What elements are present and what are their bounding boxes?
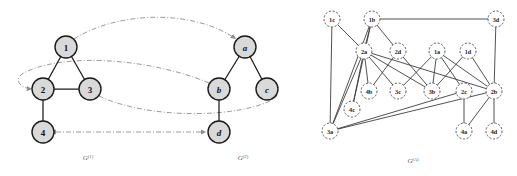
ga-node-circle-1a xyxy=(429,43,445,59)
ga-node-circle-3b xyxy=(424,83,440,99)
ga-node-circle-1d xyxy=(460,43,476,59)
ga-node-1d[interactable]: 1d xyxy=(460,43,476,59)
node-4[interactable]: 4 xyxy=(32,121,54,143)
ga-node-1c[interactable]: 1c xyxy=(324,11,340,27)
ga-node-circle-3a xyxy=(322,123,338,139)
caption-g2-sup: (2) xyxy=(243,154,249,159)
mapping-arrow-3-to-c xyxy=(99,90,277,114)
node-b[interactable]: b xyxy=(208,78,230,100)
ga-edge-2a-3a xyxy=(330,51,364,131)
g2-nodes: a b c d xyxy=(208,36,278,143)
caption-ga: G(A) xyxy=(408,157,419,166)
caption-g1: G(1) xyxy=(83,154,94,163)
caption-g2: G(2) xyxy=(238,154,249,163)
node-a[interactable]: a xyxy=(234,36,256,58)
ga-node-circle-2d xyxy=(390,43,406,59)
ga-node-3b[interactable]: 3b xyxy=(424,83,440,99)
ga-node-3d[interactable]: 3d xyxy=(488,11,504,27)
ga-node-circle-3d xyxy=(488,11,504,27)
ga-node-circle-2b xyxy=(486,83,502,99)
ga-node-2d[interactable]: 2d xyxy=(390,43,406,59)
node-d[interactable]: d xyxy=(208,121,230,143)
ga-node-circle-4b xyxy=(361,83,377,99)
graph-ga: 1c1b3d2a2d1a1d4b3c3b2c2b4c3a4a4d G(A) xyxy=(322,11,504,165)
figure-container: 1 2 3 4 G(1) xyxy=(0,0,517,176)
ga-edge-1c-3a xyxy=(330,19,332,131)
ga-node-circle-4a xyxy=(456,123,472,139)
caption-ga-sup: (A) xyxy=(413,157,419,162)
ga-node-1a[interactable]: 1a xyxy=(429,43,445,59)
ga-node-2c[interactable]: 2c xyxy=(456,83,472,99)
ga-node-circle-1b xyxy=(364,11,380,27)
ga-node-3c[interactable]: 3c xyxy=(390,83,406,99)
ga-node-4a[interactable]: 4a xyxy=(456,123,472,139)
ga-node-2b[interactable]: 2b xyxy=(486,83,502,99)
ga-node-4c[interactable]: 4c xyxy=(344,101,360,117)
graph-g1: 1 2 3 4 G(1) xyxy=(32,36,101,162)
mapping-arrow-layer xyxy=(18,17,277,132)
ga-nodes: 1c1b3d2a2d1a1d4b3c3b2c2b4c3a4a4d xyxy=(322,11,504,139)
ga-node-3a[interactable]: 3a xyxy=(322,123,338,139)
figure-svg: 1 2 3 4 G(1) xyxy=(0,0,517,176)
graph-g2: a b c d G(2) xyxy=(208,36,278,162)
ga-node-circle-4d xyxy=(486,123,502,139)
ga-edge-3d-2b xyxy=(494,19,496,91)
ga-node-circle-3c xyxy=(390,83,406,99)
caption-g1-sup: (1) xyxy=(88,154,94,159)
ga-node-4b[interactable]: 4b xyxy=(361,83,377,99)
mapping-arrow-1-to-a xyxy=(74,17,236,39)
ga-node-circle-2a xyxy=(356,43,372,59)
ga-node-circle-4c xyxy=(344,101,360,117)
ga-node-circle-1c xyxy=(324,11,340,27)
ga-node-1b[interactable]: 1b xyxy=(364,11,380,27)
ga-node-circle-2c xyxy=(456,83,472,99)
ga-edge-2a-4c xyxy=(352,51,364,109)
node-3[interactable]: 3 xyxy=(79,78,101,100)
node-2[interactable]: 2 xyxy=(32,78,54,100)
ga-node-4d[interactable]: 4d xyxy=(486,123,502,139)
ga-node-2a[interactable]: 2a xyxy=(356,43,372,59)
node-1[interactable]: 1 xyxy=(55,36,77,58)
node-c[interactable]: c xyxy=(256,78,278,100)
